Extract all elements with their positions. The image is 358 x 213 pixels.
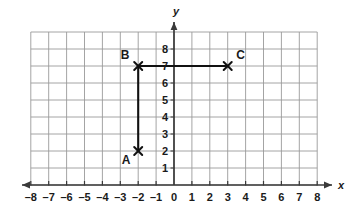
y-tick-label: 8 — [162, 43, 168, 55]
y-tick-label: 5 — [162, 94, 168, 106]
axis-names: xy — [172, 5, 345, 191]
y-tick-label: 6 — [162, 77, 168, 89]
graph-canvas: –8–7–6–5–4–3–2–1012345678 12345678 xy AB… — [0, 0, 358, 213]
y-axis-tick-labels: 12345678 — [162, 43, 169, 174]
x-tick-label: –8 — [25, 191, 37, 203]
x-tick-label: 3 — [225, 191, 231, 203]
x-tick-label: –2 — [132, 191, 144, 203]
x-tick-label: 4 — [243, 191, 250, 203]
x-tick-label: –5 — [78, 191, 90, 203]
coordinate-plane-figure: –8–7–6–5–4–3–2–1012345678 12345678 xy AB… — [0, 0, 358, 213]
x-tick-label: 5 — [260, 191, 266, 203]
x-tick-label: 2 — [207, 191, 213, 203]
point-label-a: A — [122, 153, 131, 167]
x-tick-label: 0 — [171, 191, 177, 203]
axes — [22, 22, 332, 188]
point-label-b: B — [121, 48, 130, 62]
x-tick-label: –3 — [114, 191, 126, 203]
point-label-c: C — [236, 48, 245, 62]
x-tick-label: –4 — [96, 191, 109, 203]
line-segments — [138, 66, 228, 151]
x-tick-label: –1 — [150, 191, 162, 203]
y-tick-label: 7 — [162, 60, 168, 72]
y-tick-label: 1 — [162, 162, 168, 174]
x-axis-arrow-right — [324, 182, 332, 189]
x-tick-label: 1 — [189, 191, 195, 203]
x-tick-label: 6 — [278, 191, 284, 203]
plotted-points — [134, 62, 232, 155]
x-tick-label: 7 — [296, 191, 302, 203]
x-axis-arrow-left — [22, 182, 30, 189]
x-tick-label: –6 — [60, 191, 72, 203]
y-tick-label: 4 — [162, 111, 169, 123]
y-tick-label: 2 — [162, 145, 168, 157]
x-tick-label: –7 — [43, 191, 55, 203]
y-tick-label: 3 — [162, 128, 168, 140]
x-axis-label: x — [337, 179, 345, 191]
y-axis-label: y — [172, 5, 180, 17]
y-axis-arrow-up — [171, 22, 178, 30]
x-axis-tick-labels: –8–7–6–5–4–3–2–1012345678 — [25, 191, 321, 203]
x-tick-label: 8 — [314, 191, 320, 203]
